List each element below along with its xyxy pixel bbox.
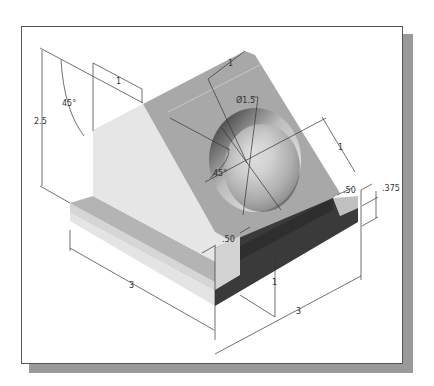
isometric-drawing: 2.5 45° 1 1 Ø1.5 45° 1 .50 .375 .50 1 3 … [0, 0, 434, 386]
dim-height-2-5: 2.5 [34, 117, 47, 126]
dim-slot-depth: 1 [272, 278, 277, 287]
dim-hole-angle-45: 45° [213, 169, 227, 178]
dim-right-1: 1 [338, 143, 343, 152]
dim-base-length-right: 3 [296, 307, 301, 316]
dim-slot-width-right: .50 [343, 186, 356, 195]
dim-base-length-left: 3 [129, 281, 134, 290]
dim-base-thickness: .375 [382, 184, 400, 193]
dim-hole-diameter: Ø1.5 [236, 95, 255, 105]
dim-angle-45-top: 45° [62, 99, 76, 108]
dim-top-right-1: 1 [228, 59, 233, 68]
dim-slot-width-left: .50 [222, 235, 235, 244]
dim-top-flat-1: 1 [116, 77, 121, 86]
